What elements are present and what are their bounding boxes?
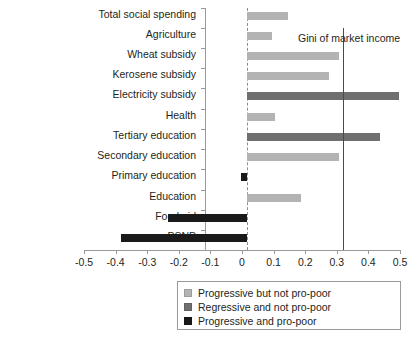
legend-swatch-icon <box>184 289 192 297</box>
legend-swatch-icon <box>184 317 192 325</box>
bar-health <box>247 113 275 121</box>
bar-food-aid <box>168 214 247 222</box>
x-axis-tick <box>210 250 211 254</box>
bar-chart: Total social spending Agriculture Wheat … <box>0 0 412 342</box>
x-axis-tick-label: 0.2 <box>298 256 313 268</box>
x-axis-tick-label: -0.4 <box>107 256 125 268</box>
x-axis-tick-label: -0.2 <box>170 256 188 268</box>
legend-label: Regressive and not pro-poor <box>198 301 331 313</box>
x-axis-tick <box>274 250 275 254</box>
legend-label: Progressive and pro-poor <box>198 315 316 327</box>
legend: Progressive but not pro-poor Regressive … <box>177 281 401 330</box>
x-axis-tick <box>368 250 369 254</box>
x-axis-tick <box>242 250 243 254</box>
x-axis-tick <box>337 250 338 254</box>
legend-item-progressive-and-pro-poor: Progressive and pro-poor <box>184 314 394 328</box>
x-axis-tick-label: 0.5 <box>393 256 408 268</box>
legend-swatch-icon <box>184 303 192 311</box>
x-axis-tick-label: -0.3 <box>138 256 156 268</box>
bar-wheat-subsidy <box>247 52 339 60</box>
bar-secondary-education <box>247 153 339 161</box>
x-axis-tick-label: 0.1 <box>266 256 281 268</box>
gini-annotation-label: Gini of market income <box>298 32 400 44</box>
x-axis-tick-label: 0.3 <box>329 256 344 268</box>
x-axis-tick-label: 0 <box>239 256 245 268</box>
x-axis-tick <box>400 250 401 254</box>
legend-label: Progressive but not pro-poor <box>198 287 331 299</box>
bar-electricity-subsidy <box>247 92 399 100</box>
bar-tertiary-education <box>247 133 380 141</box>
x-axis-tick-label: -0.5 <box>75 256 93 268</box>
x-axis-tick <box>84 250 85 254</box>
zero-reference-line <box>247 8 248 250</box>
bar-primary-education <box>241 173 247 181</box>
x-axis-tick <box>179 250 180 254</box>
legend-item-progressive-not-pro-poor: Progressive but not pro-poor <box>184 286 394 300</box>
x-axis-tick <box>116 250 117 254</box>
bar-kerosene-subsidy <box>247 72 329 80</box>
bar-education <box>247 194 301 202</box>
bar-agriculture <box>247 32 272 40</box>
x-axis-tick-label: 0.4 <box>361 256 376 268</box>
x-axis-tick <box>147 250 148 254</box>
x-axis-tick <box>305 250 306 254</box>
bar-psnp <box>121 234 247 242</box>
legend-item-regressive-not-pro-poor: Regressive and not pro-poor <box>184 300 394 314</box>
plot-area: Gini of market income <box>84 8 400 250</box>
gini-reference-line <box>343 28 344 250</box>
x-axis-tick-label: -0.1 <box>201 256 219 268</box>
bar-total-social-spending <box>247 12 288 20</box>
